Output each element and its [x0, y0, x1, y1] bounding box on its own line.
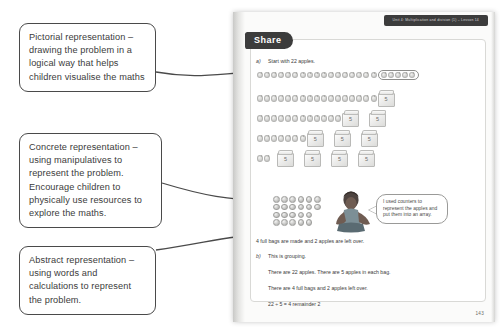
- callout-abstract-representation: Abstract representation – using words an…: [19, 246, 156, 315]
- bag-label: 5: [307, 136, 324, 142]
- screenshot-root: Pictorial representation – drawing the p…: [0, 0, 503, 331]
- callout-pictorial-representation: Pictorial representation – drawing the p…: [19, 23, 156, 92]
- apple-icon: [363, 95, 369, 101]
- counter-row: [273, 196, 322, 203]
- apple-icon: [271, 72, 277, 78]
- apple-icon: [264, 115, 270, 121]
- apple-bag: 5: [304, 150, 321, 167]
- counter-icon: [281, 219, 288, 226]
- counter-icon: [314, 196, 321, 203]
- bag-flap: [343, 110, 359, 115]
- child-illustration: [331, 190, 373, 234]
- counter-icon: [281, 196, 288, 203]
- page-edge: [491, 12, 495, 322]
- apple-icon: [356, 95, 362, 101]
- page-content-frame: a) Start with 22 apples. 5555555555 I us…: [250, 39, 486, 302]
- counter-icon: [289, 204, 296, 211]
- bag-label: 5: [361, 136, 378, 142]
- apple-icon: [285, 135, 291, 141]
- apple-icon: [307, 72, 313, 78]
- apple-icon: [271, 95, 277, 101]
- counter-icon: [298, 204, 305, 211]
- bag-label: 5: [342, 116, 359, 122]
- share-section-label: Share: [245, 32, 293, 49]
- bag-flap: [308, 130, 324, 135]
- apple-bag: 5: [307, 130, 324, 147]
- apple-icon: [278, 72, 284, 78]
- bag-label: 5: [378, 96, 395, 102]
- apple-icon: [328, 115, 334, 121]
- part-a-marker: a): [256, 58, 261, 64]
- apple-icon: [342, 72, 348, 78]
- counter-icon: [306, 204, 313, 211]
- apple-icon: [335, 95, 341, 101]
- bag-label: 5: [369, 116, 386, 122]
- part-a-prompt: Start with 22 apples.: [268, 58, 315, 64]
- apple-icon: [264, 155, 270, 161]
- apple-icon: [371, 95, 377, 101]
- bag-flap: [332, 150, 348, 155]
- apple-bag: 5: [277, 150, 294, 167]
- apple-icon: [402, 72, 408, 78]
- apple-icon: [285, 115, 291, 121]
- bag-flap: [305, 150, 321, 155]
- apple-icon: [264, 95, 270, 101]
- page-gutter: [233, 12, 245, 322]
- apple-icon: [257, 155, 263, 161]
- apple-icon: [349, 95, 355, 101]
- apple-icon: [335, 115, 341, 121]
- counter-icon: [314, 204, 321, 211]
- apple-icon: [314, 115, 320, 121]
- bag-label: 5: [334, 136, 351, 142]
- circled-apple-group: [378, 70, 419, 80]
- apple-icon: [371, 72, 377, 78]
- bag-label: 5: [304, 156, 321, 162]
- apple-icon: [257, 135, 263, 141]
- counter-icon: [298, 212, 305, 219]
- apple-icon: [271, 115, 277, 121]
- counter-icon: [281, 204, 288, 211]
- apple-icon: [314, 95, 320, 101]
- apple-bag-row: [257, 70, 419, 80]
- counter-icon: [281, 212, 288, 219]
- counter-row: [273, 204, 322, 211]
- apple-bag-row: 5: [257, 90, 405, 107]
- apple-icon: [321, 115, 327, 121]
- apple-icon: [285, 72, 291, 78]
- apple-icon: [278, 95, 284, 101]
- bag-flap: [370, 110, 386, 115]
- apple-icon: [328, 95, 334, 101]
- callout-concrete-representation: Concrete representation – using manipula…: [19, 133, 162, 228]
- counter-icon: [289, 219, 296, 226]
- bag-label: 5: [358, 156, 375, 162]
- part-b-line-0: This is grouping.: [268, 253, 306, 259]
- apple-icon: [300, 95, 306, 101]
- apple-icon: [264, 72, 270, 78]
- counter-icon: [273, 219, 280, 226]
- apple-icon: [363, 72, 369, 78]
- apple-icon: [307, 95, 313, 101]
- bag-flap: [362, 130, 378, 135]
- apple-icon: [388, 72, 394, 78]
- unit-banner: Unit 4: Multiplication and division (1) …: [384, 15, 488, 26]
- apple-icon: [335, 72, 341, 78]
- bag-flap: [359, 150, 375, 155]
- apple-icon: [292, 72, 298, 78]
- apple-icon: [292, 135, 298, 141]
- apple-bag: 5: [331, 150, 348, 167]
- speech-bubble: I used counters to represent the apples …: [376, 194, 448, 224]
- apple-icon: [395, 72, 401, 78]
- part-b-line-2: There are 4 full bags and 2 apples left …: [268, 285, 368, 291]
- counter-array: [273, 196, 322, 227]
- counter-icon: [298, 196, 305, 203]
- counter-icon: [273, 196, 280, 203]
- apple-icon: [349, 72, 355, 78]
- apple-icon: [257, 115, 263, 121]
- part-b-line-1: There are 22 apples. There are 5 apples …: [268, 269, 390, 275]
- part-a-conclusion: 4 full bags are made and 2 apples are le…: [256, 238, 364, 244]
- apple-icon: [321, 95, 327, 101]
- apple-icon: [409, 72, 415, 78]
- counter-icon: [289, 196, 296, 203]
- apple-icon: [321, 72, 327, 78]
- part-b-marker: b): [256, 253, 261, 259]
